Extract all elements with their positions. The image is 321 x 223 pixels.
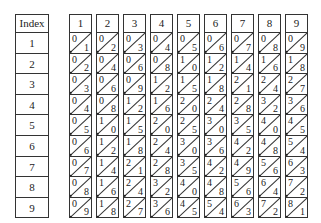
tens-digit: 0 — [261, 33, 266, 44]
units-digit: 2 — [111, 145, 116, 156]
lattice-cell: 36 — [151, 197, 172, 218]
units-digit: 5 — [84, 124, 89, 135]
tens-digit: 4 — [234, 136, 239, 147]
units-digit: 0 — [192, 145, 197, 156]
units-digit: 7 — [300, 83, 305, 94]
units-digit: 4 — [165, 42, 170, 53]
units-digit: 5 — [192, 124, 197, 135]
tens-digit: 1 — [99, 177, 104, 188]
index-row: 7 — [16, 156, 48, 177]
bone-column: 4040812162024283236 — [150, 14, 173, 218]
tens-digit: 0 — [72, 54, 77, 65]
lattice-cell: 08 — [259, 32, 280, 53]
lattice-cell: 04 — [97, 53, 118, 74]
lattice-cell: 27 — [286, 73, 307, 94]
lattice-cell: 28 — [232, 94, 253, 115]
tens-digit: 4 — [180, 198, 185, 209]
tens-digit: 1 — [180, 54, 185, 65]
tens-digit: 0 — [207, 33, 212, 44]
units-digit: 5 — [192, 83, 197, 94]
units-digit: 9 — [84, 206, 89, 217]
tens-digit: 7 — [261, 198, 266, 209]
tens-digit: 1 — [99, 136, 104, 147]
tens-digit: 6 — [234, 198, 239, 209]
tens-digit: 2 — [126, 157, 131, 168]
bone-column: 3030609121518212427 — [123, 14, 146, 218]
lattice-cell: 35 — [232, 114, 253, 135]
tens-digit: 0 — [234, 33, 239, 44]
units-digit: 4 — [84, 103, 89, 114]
units-digit: 0 — [192, 62, 197, 73]
lattice-cell: 06 — [97, 73, 118, 94]
lattice-cell: 21 — [232, 73, 253, 94]
tens-digit: 3 — [153, 177, 158, 188]
bone-header: 9 — [286, 15, 307, 32]
tens-digit: 0 — [72, 115, 77, 126]
tens-digit: 0 — [126, 74, 131, 85]
tens-digit: 0 — [72, 157, 77, 168]
units-digit: 4 — [165, 145, 170, 156]
tens-digit: 1 — [153, 74, 158, 85]
units-digit: 5 — [300, 124, 305, 135]
tens-digit: 2 — [153, 157, 158, 168]
tens-digit: 3 — [180, 136, 185, 147]
lattice-cell: 12 — [97, 135, 118, 156]
units-digit: 6 — [273, 165, 278, 176]
units-digit: 5 — [246, 124, 251, 135]
lattice-cell: 72 — [286, 176, 307, 197]
lattice-cell: 16 — [259, 53, 280, 74]
units-digit: 0 — [192, 103, 197, 114]
lattice-cell: 35 — [178, 156, 199, 177]
tens-digit: 0 — [99, 74, 104, 85]
tens-digit: 2 — [180, 115, 185, 126]
units-digit: 7 — [84, 165, 89, 176]
lattice-cell: 48 — [259, 135, 280, 156]
index-row: 6 — [16, 135, 48, 156]
units-digit: 5 — [192, 206, 197, 217]
tens-digit: 0 — [72, 74, 77, 85]
units-digit: 4 — [273, 83, 278, 94]
lattice-cell: 24 — [124, 176, 145, 197]
lattice-cell: 56 — [259, 156, 280, 177]
tens-digit: 0 — [72, 177, 77, 188]
lattice-cell: 45 — [178, 197, 199, 218]
lattice-cell: 08 — [151, 53, 172, 74]
units-digit: 0 — [111, 124, 116, 135]
lattice-cell: 40 — [178, 176, 199, 197]
tens-digit: 1 — [261, 54, 266, 65]
units-digit: 8 — [165, 165, 170, 176]
units-digit: 8 — [300, 62, 305, 73]
lattice-cell: 36 — [205, 135, 226, 156]
lattice-cell: 63 — [232, 197, 253, 218]
bone-header: 3 — [124, 15, 145, 32]
tens-digit: 0 — [72, 95, 77, 106]
lattice-cell: 01 — [70, 32, 91, 53]
lattice-cell: 32 — [151, 176, 172, 197]
tens-digit: 4 — [207, 177, 212, 188]
bone-column: 2020406081012141618 — [96, 14, 119, 218]
units-digit: 8 — [219, 83, 224, 94]
index-row: 2 — [16, 53, 48, 74]
lattice-cell: 72 — [259, 197, 280, 218]
lattice-cell: 30 — [205, 114, 226, 135]
index-row: 9 — [16, 197, 48, 218]
tens-digit: 5 — [288, 136, 293, 147]
tens-digit: 4 — [234, 157, 239, 168]
units-digit: 8 — [111, 206, 116, 217]
tens-digit: 2 — [261, 74, 266, 85]
units-digit: 1 — [138, 165, 143, 176]
lattice-cell: 09 — [70, 197, 91, 218]
tens-digit: 1 — [99, 157, 104, 168]
lattice-cell: 15 — [178, 73, 199, 94]
tens-digit: 0 — [72, 136, 77, 147]
lattice-cell: 42 — [232, 135, 253, 156]
lattice-cell: 27 — [124, 197, 145, 218]
tens-digit: 4 — [288, 115, 293, 126]
tens-digit: 1 — [153, 95, 158, 106]
index-row: 8 — [16, 176, 48, 197]
units-digit: 6 — [111, 186, 116, 197]
lattice-cell: 40 — [259, 114, 280, 135]
tens-digit: 7 — [288, 177, 293, 188]
lattice-cell: 54 — [286, 135, 307, 156]
tens-digit: 2 — [207, 95, 212, 106]
